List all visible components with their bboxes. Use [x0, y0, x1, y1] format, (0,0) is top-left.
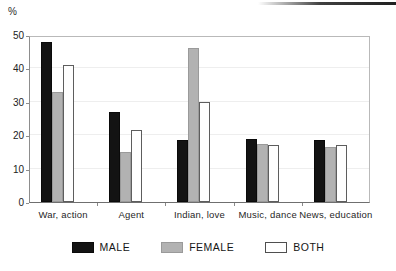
x-axis-category-label: War, action: [38, 209, 87, 220]
y-axis-unit-label: %: [8, 6, 17, 17]
y-axis-tick-label: 10: [0, 165, 29, 175]
y-axis-tick-label: 0: [0, 198, 29, 208]
bar-female: [188, 48, 199, 202]
bar-male: [246, 139, 257, 202]
y-axis-tick-label: 50: [0, 31, 29, 41]
bar-female: [52, 92, 63, 202]
legend-item-female[interactable]: FEMALE: [161, 241, 234, 253]
x-axis-category-label: Indian, love: [174, 209, 225, 220]
bar-male: [177, 140, 188, 202]
y-axis-tick-mark: [26, 103, 29, 104]
legend-item-both[interactable]: BOTH: [265, 241, 324, 253]
bar-both: [131, 130, 142, 202]
y-axis-tick-label: 40: [0, 64, 29, 74]
legend-label: MALE: [100, 241, 131, 253]
chart-legend: MALEFEMALEBOTH: [0, 241, 396, 253]
scan-artifact-streak: [258, 2, 396, 5]
bar-group: [109, 37, 142, 202]
legend-item-male[interactable]: MALE: [72, 241, 131, 253]
x-axis-category-label: Agent: [118, 209, 144, 220]
bar-group: [41, 37, 74, 202]
x-axis-tick-mark: [165, 203, 166, 206]
y-axis-tick-mark: [26, 170, 29, 171]
legend-swatch-icon: [72, 242, 94, 253]
bar-both: [336, 145, 347, 202]
legend-label: BOTH: [293, 241, 324, 253]
y-axis-tick-mark: [26, 203, 29, 204]
bar-male: [314, 140, 325, 202]
bar-group: [246, 37, 279, 202]
bar-male: [41, 42, 52, 202]
x-axis-category-label: News, education: [299, 209, 372, 220]
y-axis-tick-mark: [26, 69, 29, 70]
x-axis-tick-mark: [234, 203, 235, 206]
y-axis-tick-label: 20: [0, 131, 29, 141]
legend-swatch-icon: [161, 242, 183, 253]
bar-female: [120, 152, 131, 202]
legend-swatch-icon: [265, 242, 287, 253]
bar-group: [314, 37, 347, 202]
y-axis-tick-label: 30: [0, 98, 29, 108]
bar-female: [257, 144, 268, 202]
x-axis-category-label: Music, dance: [239, 209, 297, 220]
bar-female: [325, 147, 336, 202]
bar-male: [109, 112, 120, 202]
bar-group: [177, 37, 210, 202]
y-axis-tick-mark: [26, 36, 29, 37]
plot-area: [29, 36, 370, 203]
bar-both: [199, 102, 210, 202]
bar-both: [268, 145, 279, 202]
legend-label: FEMALE: [189, 241, 234, 253]
x-axis-tick-mark: [302, 203, 303, 206]
bar-chart: % 01020304050 War, actionAgentIndian, lo…: [0, 0, 396, 271]
y-axis-tick-mark: [26, 136, 29, 137]
bar-both: [63, 65, 74, 202]
x-axis-tick-mark: [97, 203, 98, 206]
